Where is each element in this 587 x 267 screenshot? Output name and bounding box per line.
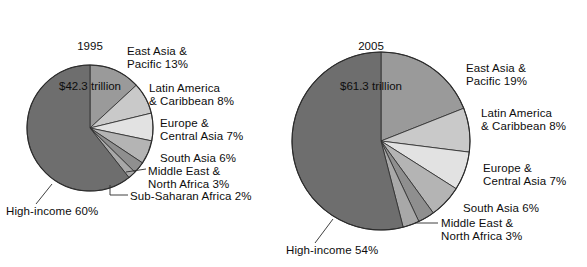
leader-line-high-income-left (36, 184, 52, 204)
leader-line-high-income-right (315, 219, 333, 243)
figure-canvas: 1995 $42.3 trillion East Asia & Pacific … (0, 0, 587, 267)
right-label-middle-east-north-africa: Middle East & North Africa 3% (441, 217, 522, 243)
left-label-europe-central-asia: Europe & Central Asia 7% (160, 117, 243, 143)
left-label-high-income: High-income 60% (6, 205, 98, 218)
right-chart-title-total: $61.3 trillion (319, 80, 423, 93)
left-label-middle-east-north-africa: Middle East & North Africa 3% (148, 165, 229, 191)
left-label-east-asia-pacific: East Asia & Pacific 13% (127, 45, 188, 71)
left-label-south-asia: South Asia 6% (160, 152, 236, 165)
right-label-europe-central-asia: Europe & Central Asia 7% (483, 162, 566, 188)
left-label-latin-america-caribbean: Latin America & Caribbean 8% (149, 82, 234, 108)
right-chart-title-year: 2005 (319, 40, 423, 53)
right-chart-title: 2005 $61.3 trillion (319, 14, 423, 120)
right-label-east-asia-pacific: East Asia & Pacific 19% (466, 62, 527, 88)
right-label-south-asia: South Asia 6% (463, 202, 539, 215)
right-label-high-income: High-income 54% (286, 244, 378, 257)
left-label-sub-saharan-africa: Sub-Saharan Africa 2% (130, 190, 252, 203)
left-chart-title-total: $42.3 trillion (38, 80, 142, 93)
right-label-latin-america-caribbean: Latin America & Caribbean 8% (481, 107, 566, 133)
